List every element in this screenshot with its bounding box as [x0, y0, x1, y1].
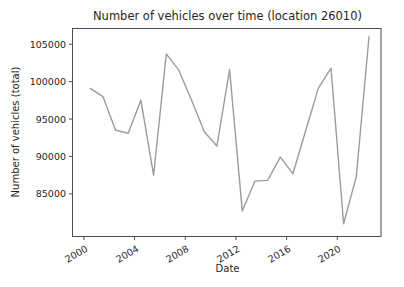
vehicles-line — [90, 37, 369, 224]
axes-frame — [73, 29, 382, 237]
y-tick-label: 85000 — [6, 188, 66, 199]
y-tick-label: 90000 — [6, 151, 66, 162]
x-ticks — [84, 237, 337, 241]
y-tick-label: 105000 — [6, 39, 66, 50]
y-ticks — [69, 44, 73, 194]
x-axis-label: Date — [73, 263, 382, 274]
figure: Number of vehicles over time (location 2… — [0, 0, 404, 287]
y-tick-label: 95000 — [6, 114, 66, 125]
y-tick-label: 100000 — [6, 76, 66, 87]
